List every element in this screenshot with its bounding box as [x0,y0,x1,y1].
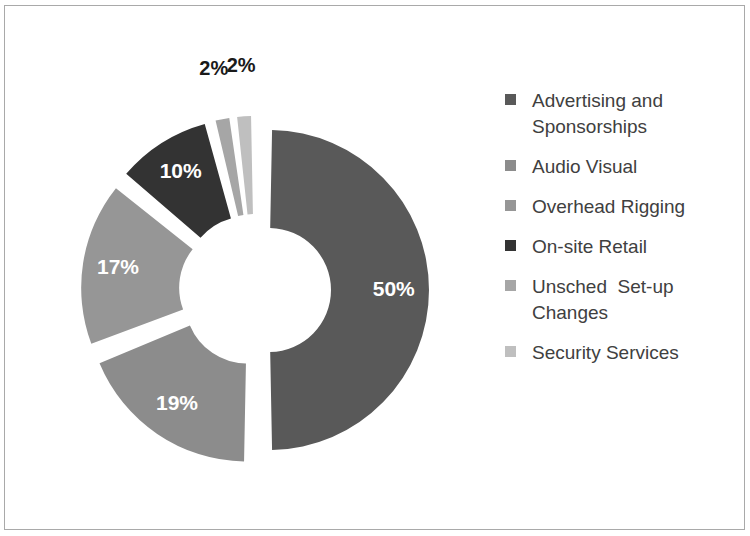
legend-item-label: Advertising and Sponsorships [532,88,743,140]
legend-item[interactable]: Advertising and Sponsorships [505,88,743,140]
legend-item-label: Security Services [532,340,679,366]
legend-item-label: Audio Visual [532,154,637,180]
chart-legend: Advertising and SponsorshipsAudio Visual… [505,88,743,380]
slice-data-label: 2% [227,54,256,76]
legend-item[interactable]: Audio Visual [505,154,743,180]
legend-color-swatch-icon [505,346,516,357]
legend-item[interactable]: Unsched Set-up Changes [505,274,743,326]
slice-data-label: 10% [160,159,202,182]
legend-color-swatch-icon [505,200,516,211]
legend-item-label: Overhead Rigging [532,194,685,220]
legend-item-label: Unsched Set-up Changes [532,274,743,326]
legend-color-swatch-icon [505,160,516,171]
slice-data-label: 50% [373,277,415,300]
legend-color-swatch-icon [505,240,516,251]
slice-data-label: 17% [97,255,139,278]
slice-data-label: 2% [199,57,228,79]
legend-item[interactable]: Overhead Rigging [505,194,743,220]
donut-chart-plot-area: 50%19%17%10%2%2% [0,0,500,536]
legend-color-swatch-icon [505,280,516,291]
legend-item[interactable]: Security Services [505,340,743,366]
chart-container: 50%19%17%10%2%2% Advertising and Sponsor… [0,0,750,536]
legend-item[interactable]: On-site Retail [505,234,743,260]
legend-color-swatch-icon [505,94,516,105]
legend-item-label: On-site Retail [532,234,647,260]
slice-data-label: 19% [156,391,198,414]
donut-chart-svg: 50%19%17%10%2%2% [0,0,500,536]
